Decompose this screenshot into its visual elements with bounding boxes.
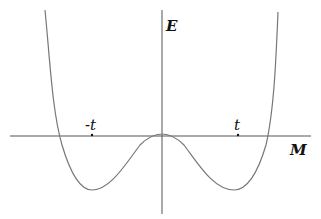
tick-label-neg-t: -t bbox=[85, 116, 97, 134]
energy-diagram: E M -t t bbox=[0, 0, 321, 219]
tick-label-pos-t: t bbox=[234, 116, 241, 134]
tick-neg-t bbox=[91, 134, 93, 136]
y-axis-label: E bbox=[165, 17, 178, 35]
x-axis-label: M bbox=[289, 141, 307, 159]
tick-pos-t bbox=[237, 134, 239, 136]
